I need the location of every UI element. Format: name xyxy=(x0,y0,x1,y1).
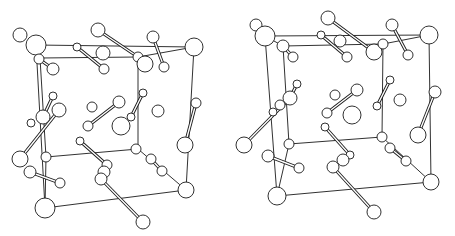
atom xyxy=(321,11,335,25)
atom xyxy=(49,92,57,100)
right-stereo-view xyxy=(236,11,441,219)
diagram-canvas xyxy=(0,0,455,236)
atom xyxy=(410,127,426,143)
atom xyxy=(334,35,346,47)
unit-cell-edge xyxy=(382,44,383,137)
atom xyxy=(147,31,159,43)
atom xyxy=(342,52,352,62)
atom xyxy=(55,178,65,188)
atom xyxy=(401,156,411,166)
atom xyxy=(351,84,363,96)
atom xyxy=(373,102,381,110)
atom xyxy=(52,103,66,117)
unit-cell-edge xyxy=(40,58,46,157)
atom xyxy=(12,151,28,167)
atom xyxy=(394,94,406,106)
atom xyxy=(27,119,35,127)
atom xyxy=(26,35,46,55)
atom xyxy=(367,205,381,219)
atom xyxy=(112,117,130,135)
atom xyxy=(284,139,294,149)
atom xyxy=(99,64,109,74)
atom xyxy=(403,50,413,60)
atom xyxy=(87,102,97,112)
atom xyxy=(13,28,27,42)
atom xyxy=(137,56,153,72)
atom xyxy=(91,23,105,37)
atom xyxy=(73,43,81,51)
atom xyxy=(317,31,325,39)
atom xyxy=(96,46,110,60)
atom xyxy=(83,121,93,131)
atom xyxy=(185,38,203,56)
atom xyxy=(36,110,50,124)
atom xyxy=(152,105,164,117)
atom xyxy=(275,100,285,110)
atom xyxy=(146,154,156,164)
atom xyxy=(283,91,297,105)
atom xyxy=(386,19,398,31)
atom xyxy=(423,174,439,190)
atom xyxy=(321,123,329,131)
left-stereo-view xyxy=(12,23,203,229)
unit-cell-edge xyxy=(265,35,429,36)
atom xyxy=(34,54,44,64)
atom xyxy=(343,106,361,124)
atom xyxy=(386,76,394,84)
atom xyxy=(139,89,147,97)
atom xyxy=(127,113,135,121)
atom xyxy=(378,39,388,49)
atom xyxy=(293,80,301,88)
atom xyxy=(131,144,141,154)
atom xyxy=(277,40,289,52)
atom xyxy=(236,137,252,153)
atom xyxy=(157,166,167,176)
atom xyxy=(420,26,438,44)
atom xyxy=(76,137,84,145)
atom xyxy=(255,26,275,46)
atom xyxy=(288,52,298,62)
stereo-crystal-diagram xyxy=(0,0,455,236)
atom xyxy=(113,96,125,108)
atom xyxy=(95,173,107,185)
atom xyxy=(429,86,441,98)
atom xyxy=(24,166,36,178)
atom xyxy=(377,132,387,142)
atom xyxy=(41,152,51,162)
bond xyxy=(333,167,374,212)
atom xyxy=(35,198,55,218)
atom xyxy=(136,215,150,229)
atom xyxy=(330,90,340,100)
atom xyxy=(262,150,274,162)
atom xyxy=(322,108,332,118)
atom xyxy=(385,143,395,153)
atom xyxy=(47,63,59,75)
atom xyxy=(294,163,304,173)
atom xyxy=(327,161,339,173)
atom xyxy=(268,187,286,205)
atom xyxy=(178,182,194,198)
unit-cell-edge xyxy=(36,45,194,47)
atom xyxy=(177,137,193,153)
atom xyxy=(159,62,169,72)
atom xyxy=(191,98,201,108)
atom xyxy=(269,108,277,116)
